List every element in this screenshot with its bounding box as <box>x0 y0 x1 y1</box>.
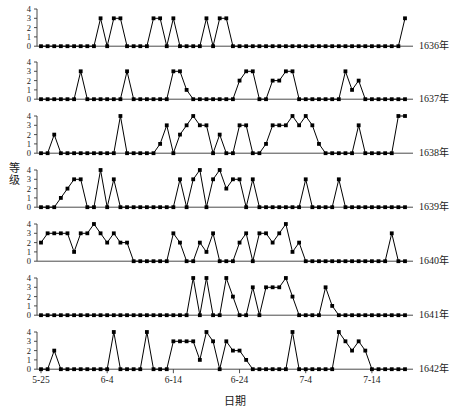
data-point-marker <box>99 231 103 235</box>
data-point-marker <box>165 205 169 209</box>
y-tick-label: 4 <box>19 58 31 67</box>
y-tick-label: 1 <box>19 194 31 203</box>
data-point-marker <box>330 151 334 155</box>
data-point-marker <box>66 231 70 235</box>
data-point-marker <box>310 313 314 317</box>
data-point-marker <box>350 259 354 263</box>
data-point-marker <box>396 114 400 118</box>
data-point-marker <box>310 259 314 263</box>
data-point-marker <box>317 142 321 146</box>
data-point-marker <box>297 241 301 245</box>
data-point-marker <box>337 44 341 48</box>
data-point-marker <box>258 367 262 371</box>
data-point-marker <box>271 205 275 209</box>
data-point-marker <box>324 44 328 48</box>
data-point-marker <box>178 313 182 317</box>
data-point-marker <box>171 205 175 209</box>
series-label-1636年: 1636年 <box>419 41 449 51</box>
data-point-marker <box>191 339 195 343</box>
data-point-marker <box>158 205 162 209</box>
data-point-marker <box>158 97 162 101</box>
data-point-marker <box>66 187 70 191</box>
data-point-marker <box>165 259 169 263</box>
data-point-marker <box>152 205 156 209</box>
data-point-marker <box>344 44 348 48</box>
data-point-marker <box>132 367 136 371</box>
data-point-marker <box>171 151 175 155</box>
data-point-marker <box>218 259 222 263</box>
data-point-marker <box>125 313 129 317</box>
data-point-marker <box>66 151 70 155</box>
data-point-marker <box>271 285 275 289</box>
data-point-marker <box>297 313 301 317</box>
data-point-marker <box>390 205 394 209</box>
y-tick-label: 3 <box>19 337 31 346</box>
data-point-marker <box>304 114 308 118</box>
data-point-marker <box>324 151 328 155</box>
data-point-marker <box>211 231 215 235</box>
data-point-marker <box>138 259 142 263</box>
data-point-marker <box>396 97 400 101</box>
data-point-marker <box>218 97 222 101</box>
data-point-marker <box>291 295 295 299</box>
data-point-marker <box>185 259 189 263</box>
data-point-marker <box>271 241 275 245</box>
data-point-marker <box>145 205 149 209</box>
data-point-marker <box>198 44 202 48</box>
data-point-marker <box>357 123 361 127</box>
chart-figure: 等级 日期 012341636年012341637年012341638年0123… <box>0 0 470 411</box>
data-point-marker <box>344 313 348 317</box>
x-tick-label: 6-24 <box>220 375 260 385</box>
x-tick-label: 6-4 <box>87 375 127 385</box>
data-point-marker <box>178 241 182 245</box>
data-point-marker <box>357 259 361 263</box>
data-point-marker <box>92 367 96 371</box>
data-point-marker <box>310 44 314 48</box>
data-point-marker <box>132 44 136 48</box>
data-point-marker <box>158 367 162 371</box>
series-line <box>41 224 405 261</box>
data-point-marker <box>211 339 215 343</box>
data-point-marker <box>138 313 142 317</box>
data-point-marker <box>264 97 268 101</box>
data-point-marker <box>403 259 407 263</box>
data-point-marker <box>377 97 381 101</box>
data-point-marker <box>244 205 248 209</box>
data-point-marker <box>198 97 202 101</box>
data-point-marker <box>119 114 123 118</box>
data-point-marker <box>52 44 56 48</box>
data-point-marker <box>291 69 295 73</box>
data-point-marker <box>158 142 162 146</box>
data-point-marker <box>99 97 103 101</box>
data-point-marker <box>370 97 374 101</box>
y-tick-label: 3 <box>19 14 31 23</box>
data-point-marker <box>138 97 142 101</box>
data-point-marker <box>79 44 83 48</box>
data-point-marker <box>52 97 56 101</box>
data-point-marker <box>337 177 341 181</box>
data-point-marker <box>271 367 275 371</box>
data-point-marker <box>185 339 189 343</box>
data-point-marker <box>377 151 381 155</box>
series-line <box>41 116 405 153</box>
data-point-marker <box>79 313 83 317</box>
data-point-marker <box>337 313 341 317</box>
x-tick-label: 7-14 <box>352 375 392 385</box>
data-point-marker <box>152 367 156 371</box>
series-label-1640年: 1640年 <box>419 256 449 266</box>
y-tick-label: 2 <box>19 77 31 86</box>
data-point-marker <box>357 313 361 317</box>
data-point-marker <box>277 123 281 127</box>
y-tick-label: 1 <box>19 33 31 42</box>
data-point-marker <box>185 205 189 209</box>
data-point-marker <box>238 44 242 48</box>
data-point-marker <box>205 205 209 209</box>
data-point-marker <box>271 79 275 83</box>
data-point-marker <box>119 241 123 245</box>
data-point-marker <box>92 97 96 101</box>
data-point-marker <box>231 44 235 48</box>
data-point-marker <box>350 313 354 317</box>
series-line <box>41 18 405 46</box>
data-point-marker <box>317 205 321 209</box>
data-point-marker <box>317 313 321 317</box>
